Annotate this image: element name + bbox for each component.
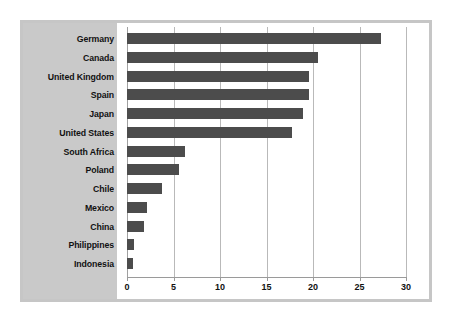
x-tick-label: 30 bbox=[396, 282, 416, 292]
x-tick-mark bbox=[127, 277, 128, 281]
plot-inner bbox=[127, 27, 406, 277]
x-tick-mark bbox=[313, 277, 314, 281]
x-tick-mark bbox=[174, 277, 175, 281]
gridline-20 bbox=[313, 27, 314, 277]
bar bbox=[127, 202, 147, 213]
category-label: Spain bbox=[30, 89, 114, 100]
x-tick-label: 5 bbox=[164, 282, 184, 292]
gridline-15 bbox=[267, 27, 268, 277]
bar bbox=[127, 89, 309, 100]
category-label: Philippines bbox=[30, 239, 114, 250]
x-tick-label: 20 bbox=[303, 282, 323, 292]
category-label: United Kingdom bbox=[30, 71, 114, 82]
category-label: Indonesia bbox=[30, 258, 114, 269]
x-tick-mark bbox=[360, 277, 361, 281]
plot-area: 051015202530 bbox=[117, 23, 429, 299]
category-label: Canada bbox=[30, 52, 114, 63]
category-label: Japan bbox=[30, 108, 114, 119]
gridline-25 bbox=[360, 27, 361, 277]
bar bbox=[127, 146, 185, 157]
x-tick-label: 25 bbox=[350, 282, 370, 292]
x-tick-label: 10 bbox=[210, 282, 230, 292]
bar-chart-figure: GermanyCanadaUnited KingdomSpainJapanUni… bbox=[20, 20, 432, 302]
bar bbox=[127, 52, 318, 63]
category-label: China bbox=[30, 221, 114, 232]
bar bbox=[127, 221, 144, 232]
bar bbox=[127, 33, 381, 44]
category-label: South Africa bbox=[30, 146, 114, 157]
bar bbox=[127, 183, 162, 194]
category-label: Chile bbox=[30, 183, 114, 194]
category-axis-labels: GermanyCanadaUnited KingdomSpainJapanUni… bbox=[23, 23, 114, 299]
category-label: Mexico bbox=[30, 202, 114, 213]
bar bbox=[127, 258, 133, 269]
x-tick-label: 15 bbox=[257, 282, 277, 292]
bar bbox=[127, 127, 292, 138]
category-label: Germany bbox=[30, 33, 114, 44]
category-label: Poland bbox=[30, 164, 114, 175]
gridline-10 bbox=[220, 27, 221, 277]
x-tick-label: 0 bbox=[117, 282, 137, 292]
category-label: United States bbox=[30, 127, 114, 138]
bar bbox=[127, 239, 134, 250]
x-tick-mark bbox=[406, 277, 407, 281]
bar bbox=[127, 164, 179, 175]
bar bbox=[127, 108, 303, 119]
gridline-30 bbox=[406, 27, 407, 277]
x-tick-mark bbox=[267, 277, 268, 281]
bar bbox=[127, 71, 309, 82]
x-tick-mark bbox=[220, 277, 221, 281]
